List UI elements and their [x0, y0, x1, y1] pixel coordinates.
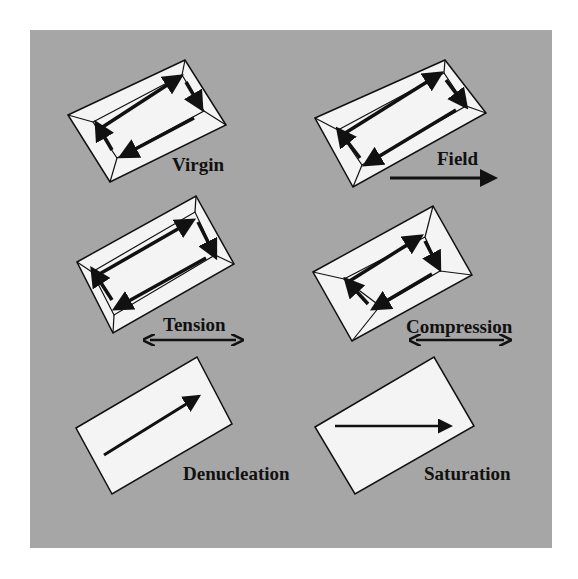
label-virgin: Virgin	[172, 154, 225, 175]
magnetic-domain-diagram: Virgin Field Tension	[0, 0, 578, 579]
label-tension: Tension	[163, 314, 226, 335]
label-denucleation: Denucleation	[183, 463, 290, 484]
label-compression: Compression	[406, 316, 513, 337]
panel-saturation: Saturation	[315, 357, 511, 494]
panel-field: Field	[315, 60, 492, 187]
panel-virgin: Virgin	[68, 60, 226, 182]
label-saturation: Saturation	[424, 463, 511, 484]
panel-denucleation: Denucleation	[76, 357, 290, 494]
panel-compression: Compression	[313, 206, 513, 341]
panel-tension: Tension	[77, 196, 236, 340]
label-field: Field	[437, 148, 479, 169]
